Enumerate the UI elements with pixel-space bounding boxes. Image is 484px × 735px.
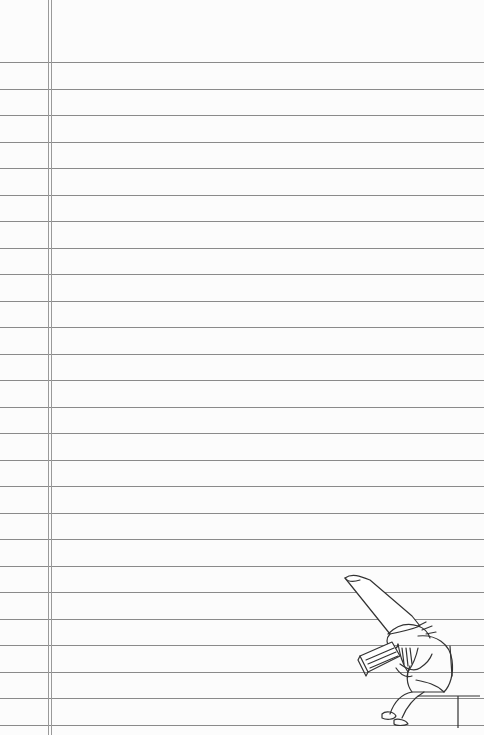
ruled-line xyxy=(0,301,484,302)
ruled-line xyxy=(0,460,484,461)
ruled-line xyxy=(0,221,484,222)
margin-line-right xyxy=(51,0,52,735)
ruled-line xyxy=(0,274,484,275)
ruled-line xyxy=(0,142,484,143)
ruled-line xyxy=(0,539,484,540)
ruled-line xyxy=(0,168,484,169)
ruled-line xyxy=(0,89,484,90)
ruled-line xyxy=(0,327,484,328)
margin-line-left xyxy=(48,0,49,735)
ruled-line xyxy=(0,354,484,355)
ruled-line xyxy=(0,115,484,116)
ruled-line xyxy=(0,513,484,514)
lined-paper xyxy=(0,0,484,735)
gnome-reading-icon xyxy=(340,568,480,728)
ruled-line xyxy=(0,566,484,567)
ruled-line xyxy=(0,486,484,487)
ruled-line xyxy=(0,380,484,381)
ruled-line xyxy=(0,62,484,63)
ruled-line xyxy=(0,433,484,434)
ruled-line xyxy=(0,195,484,196)
ruled-line xyxy=(0,248,484,249)
ruled-line xyxy=(0,407,484,408)
